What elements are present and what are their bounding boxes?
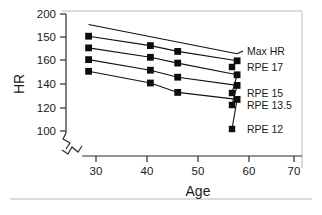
x-axis-break-icon <box>62 146 82 154</box>
x-tick-marks <box>96 156 294 162</box>
legend-leader-line <box>237 51 243 54</box>
data-point-marker <box>147 54 154 61</box>
x-tick-label-0: 30 <box>90 165 103 177</box>
series-line <box>89 71 238 99</box>
x-axis-title: Age <box>186 183 211 199</box>
legend-label-max-hr: Max HR <box>247 45 285 57</box>
data-point-marker <box>174 48 181 55</box>
series-rpe-13-5 <box>85 56 240 89</box>
x-tick-label-3: 60 <box>243 165 256 177</box>
y-tick-marks <box>60 14 66 131</box>
data-point-marker <box>85 45 92 52</box>
data-point-marker <box>147 80 154 87</box>
legend-label-rpe-15: RPE 15 <box>247 87 283 99</box>
series-layer <box>85 25 240 103</box>
legend-label-rpe-17: RPE 17 <box>247 61 283 73</box>
y-axis-title: HR <box>11 74 27 94</box>
legend-marker <box>229 102 235 108</box>
series-line <box>89 48 238 75</box>
y-axis-break-icon <box>63 133 70 149</box>
x-tick-label-1: 40 <box>141 165 154 177</box>
data-point-marker <box>85 56 92 63</box>
y-tick-label-1: 150 <box>37 31 56 43</box>
chart-figure: 200 150 160 140 120 100 HR 30 40 50 60 7… <box>0 0 322 215</box>
series-line <box>89 36 238 61</box>
data-point-marker <box>174 60 181 67</box>
chart-canvas: 200 150 160 140 120 100 HR 30 40 50 60 7… <box>0 0 322 215</box>
legend-label-rpe-135: RPE 13.5 <box>247 99 292 111</box>
x-tick-label-4: 70 <box>288 165 301 177</box>
y-tick-label-3: 140 <box>37 78 56 90</box>
data-point-marker <box>147 67 154 74</box>
y-tick-label-0: 200 <box>37 8 56 20</box>
data-point-marker <box>85 33 92 40</box>
x-tick-label-2: 50 <box>192 165 205 177</box>
data-point-marker <box>174 89 181 96</box>
series-line <box>89 60 238 86</box>
legend-marker <box>229 126 235 132</box>
legend-marker <box>229 64 235 70</box>
y-tick-label-4: 120 <box>37 102 56 114</box>
y-tick-label-2: 160 <box>37 54 56 66</box>
data-point-marker <box>147 42 154 49</box>
data-point-marker <box>85 68 92 75</box>
legend-label-rpe-12: RPE 12 <box>247 123 283 135</box>
y-tick-label-5: 100 <box>37 125 56 137</box>
data-point-marker <box>174 74 181 81</box>
